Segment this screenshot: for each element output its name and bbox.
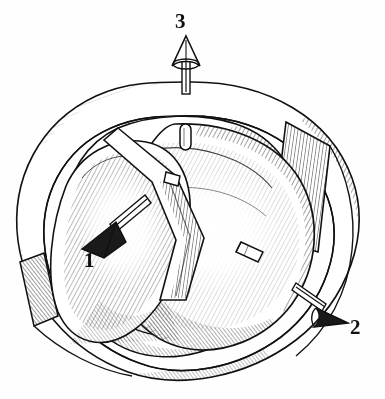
pivot-pin-top bbox=[180, 124, 191, 150]
gimbal-illustration bbox=[0, 0, 385, 399]
figure-container: 1 2 3 bbox=[0, 0, 385, 399]
axis-1-label: 1 bbox=[84, 250, 95, 271]
axis-3-label: 3 bbox=[175, 11, 186, 32]
axis-2-label: 2 bbox=[350, 317, 361, 338]
